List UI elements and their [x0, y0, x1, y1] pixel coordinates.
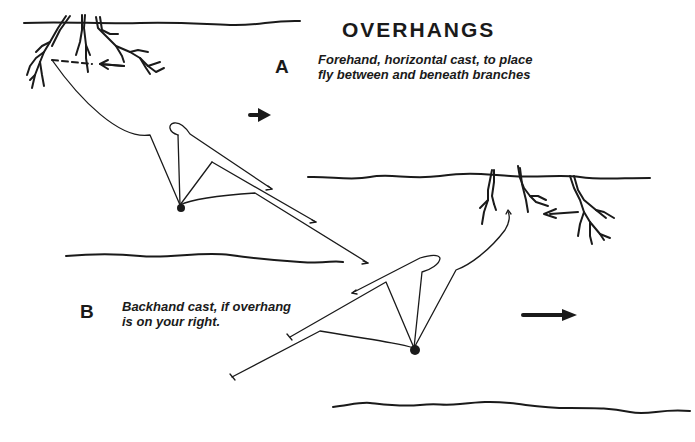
caption-B-line-1: Backhand cast, if overhang: [122, 299, 291, 314]
cast-A-lines: [52, 60, 368, 264]
cast-B-lines: [230, 210, 511, 380]
angler-A: [177, 204, 185, 212]
section-label-B: B: [80, 301, 94, 323]
water-line-middle: [66, 254, 343, 263]
bank-right: [308, 174, 650, 179]
caption-A-line-1: Forehand, horizontal cast, to place: [318, 52, 533, 67]
diagram-title: OVERHANGS: [342, 18, 495, 42]
section-caption-B: Backhand cast, if overhang is on your ri…: [122, 299, 291, 329]
flow-arrow-right-B: [523, 309, 577, 321]
flow-arrow-right-A: [250, 108, 271, 122]
section-caption-A: Forehand, horizontal cast, to place fly …: [318, 52, 533, 82]
angler-B: [410, 345, 420, 355]
caption-B-line-2: is on your right.: [122, 314, 291, 329]
caption-A-line-2: fly between and beneath branches: [318, 67, 533, 82]
cast-B-target-arrow: [544, 209, 578, 218]
branches-top-left: [27, 15, 164, 88]
water-line-bottom: [333, 402, 690, 413]
section-label-A: A: [275, 56, 289, 78]
